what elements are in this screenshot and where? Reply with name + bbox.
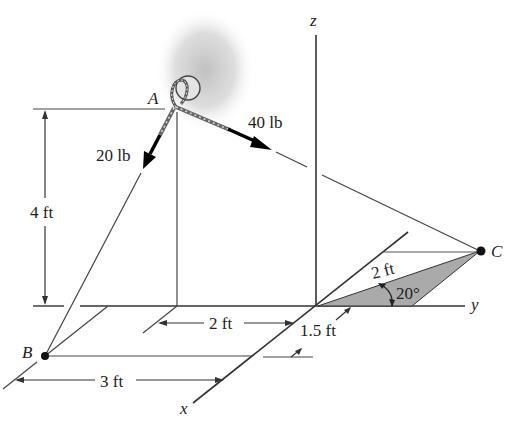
diagram-canvas: 4 ft 2 ft 3 ft 1.5 ft 20° 2 ft 20 lb 40 … xyxy=(0,0,515,441)
y-axis-label: y xyxy=(469,295,479,314)
dim-4ft-label: 4 ft xyxy=(30,203,53,222)
arrowhead xyxy=(295,348,302,355)
b-x-line xyxy=(45,306,108,356)
angle-label: 20° xyxy=(396,284,420,303)
force-20lb-label: 20 lb xyxy=(96,146,130,165)
cable-ab xyxy=(45,173,141,356)
dim-3ft-label: 3 ft xyxy=(100,372,123,391)
arrow-20lb-shaft xyxy=(150,135,160,154)
arrowhead xyxy=(42,110,48,119)
arrowhead xyxy=(158,320,167,326)
z-axis-label: z xyxy=(309,11,317,30)
b-ext-line xyxy=(3,362,37,389)
point-a-label: A xyxy=(147,89,159,108)
cable-ac xyxy=(322,175,480,251)
arrowhead xyxy=(42,296,48,305)
arrow-40lb-head xyxy=(250,136,272,150)
x-axis-label: x xyxy=(179,399,188,418)
dim-1-5ft-label: 1.5 ft xyxy=(300,321,336,340)
point-b-marker xyxy=(41,352,49,360)
a-base-x-line xyxy=(143,306,177,333)
point-c-marker xyxy=(477,247,486,256)
point-c-label: C xyxy=(491,242,503,261)
dim-oc-label: 2 ft xyxy=(369,259,396,283)
force-40lb-label: 40 lb xyxy=(248,113,282,132)
cable-ac-stub xyxy=(276,152,307,167)
point-b-label: B xyxy=(22,343,33,362)
dim-2ft-label: 2 ft xyxy=(209,314,232,333)
arrowhead xyxy=(285,320,294,326)
